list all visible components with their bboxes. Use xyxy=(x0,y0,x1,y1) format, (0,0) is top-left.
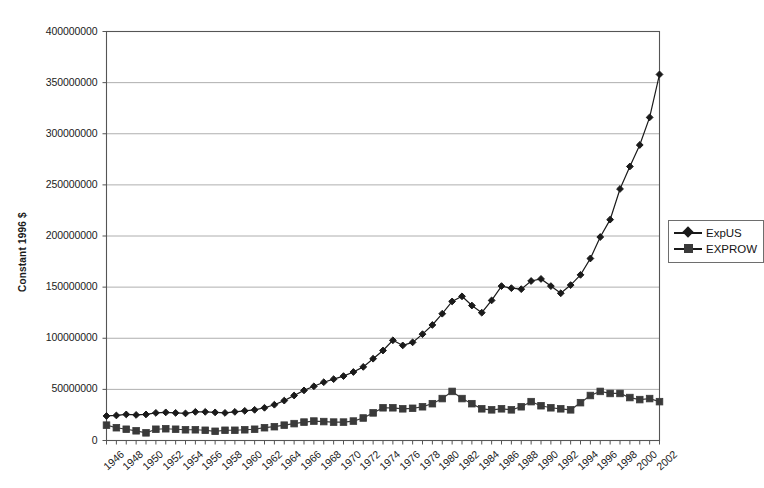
data-point xyxy=(291,392,298,399)
data-point xyxy=(123,411,130,418)
data-point xyxy=(172,426,179,433)
data-point xyxy=(123,426,130,433)
data-point xyxy=(222,427,229,434)
data-point xyxy=(320,379,327,386)
data-point xyxy=(192,408,199,415)
data-point xyxy=(360,415,367,422)
data-point xyxy=(498,283,505,290)
data-point xyxy=(429,400,436,407)
data-point xyxy=(557,406,564,413)
data-point xyxy=(607,216,614,223)
data-point xyxy=(449,388,456,395)
data-point xyxy=(261,404,268,411)
y-tick-label: 200000000 xyxy=(0,229,98,241)
data-point xyxy=(192,426,199,433)
data-point xyxy=(508,407,515,414)
data-point xyxy=(330,376,337,383)
chart-legend: ExpUS EXPROW xyxy=(668,220,764,263)
data-point xyxy=(330,419,337,426)
data-point xyxy=(577,399,584,406)
data-point xyxy=(310,383,317,390)
data-point xyxy=(548,404,555,411)
data-point xyxy=(281,422,288,429)
y-tick-label: 50000000 xyxy=(0,382,98,394)
data-point xyxy=(152,409,159,416)
data-point xyxy=(380,404,387,411)
data-point xyxy=(627,394,634,401)
data-point xyxy=(478,406,485,413)
data-point xyxy=(311,418,318,425)
data-point xyxy=(498,406,505,413)
data-point xyxy=(646,395,653,402)
data-point xyxy=(390,404,397,411)
data-point xyxy=(202,408,209,415)
data-point xyxy=(587,255,594,262)
data-point xyxy=(340,373,347,380)
data-point xyxy=(636,142,643,149)
data-point xyxy=(271,401,278,408)
data-point xyxy=(113,424,120,431)
data-point xyxy=(133,412,140,419)
data-point xyxy=(459,395,466,402)
data-point xyxy=(172,409,179,416)
data-point xyxy=(103,413,110,420)
data-point xyxy=(320,418,327,425)
data-point xyxy=(291,420,298,427)
data-point xyxy=(340,419,347,426)
data-point xyxy=(607,390,614,397)
y-tick-label: 100000000 xyxy=(0,331,98,343)
data-point xyxy=(488,407,495,414)
legend-label-exprow: EXPROW xyxy=(702,243,757,255)
data-point xyxy=(399,406,406,413)
y-tick-label: 400000000 xyxy=(0,25,98,37)
data-point xyxy=(182,410,189,417)
x-axis-ticks xyxy=(107,441,660,445)
data-point xyxy=(617,390,624,397)
y-tick-label: 300000000 xyxy=(0,127,98,139)
data-point xyxy=(597,388,604,395)
data-point xyxy=(656,398,663,405)
y-tick-label: 0 xyxy=(0,434,98,446)
data-point xyxy=(212,409,219,416)
legend-item-exprow[interactable]: EXPROW xyxy=(674,241,757,257)
data-point xyxy=(153,426,160,433)
data-point xyxy=(528,398,535,405)
data-point xyxy=(350,369,357,376)
data-point xyxy=(439,395,446,402)
data-point xyxy=(212,428,219,435)
data-point xyxy=(241,426,248,433)
data-point xyxy=(231,408,238,415)
data-point xyxy=(646,114,653,121)
data-point xyxy=(103,422,110,429)
series-line xyxy=(107,391,660,432)
data-point xyxy=(301,387,308,394)
data-point xyxy=(636,396,643,403)
data-point xyxy=(271,423,278,430)
data-point xyxy=(143,411,150,418)
data-point xyxy=(241,407,248,414)
legend-item-expus[interactable]: ExpUS xyxy=(674,225,757,241)
data-point xyxy=(656,71,663,78)
data-point xyxy=(113,412,120,419)
data-point xyxy=(399,342,406,349)
data-point xyxy=(143,430,150,437)
data-point xyxy=(222,409,229,416)
data-point xyxy=(232,427,239,434)
data-point xyxy=(370,410,377,417)
data-point xyxy=(508,285,515,292)
data-point xyxy=(301,419,308,426)
series-line xyxy=(107,74,660,416)
data-point xyxy=(617,186,624,193)
data-point xyxy=(409,405,416,412)
data-point xyxy=(587,392,594,399)
series-expus xyxy=(103,71,663,419)
data-point xyxy=(567,407,574,414)
data-point xyxy=(518,403,525,410)
data-point xyxy=(162,409,169,416)
data-point xyxy=(162,425,169,432)
data-point xyxy=(281,397,288,404)
y-axis-ticks xyxy=(103,32,107,441)
y-tick-label: 350000000 xyxy=(0,76,98,88)
